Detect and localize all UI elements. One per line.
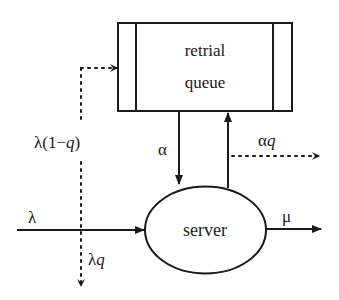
lambda-label: λ [28, 208, 37, 227]
alpha-q-label: αq [258, 131, 276, 150]
retrial-label: retrial [185, 41, 226, 60]
alpha-label: α [158, 140, 167, 159]
queue-label: queue [185, 73, 226, 92]
orbit-split-dotted: λ(1−q) λq [34, 68, 117, 286]
mu-label: μ [282, 207, 291, 226]
queue-diagram: retrial queue server λ λ(1−q) λq α αq μ [0, 0, 339, 300]
retrial-queue-box: retrial queue [118, 23, 292, 111]
orbit-loss-arrow: αq [232, 131, 319, 156]
lambda-q-label: λq [88, 250, 105, 269]
retrial-arrow: α [158, 111, 179, 184]
server-label: server [183, 220, 227, 240]
service-arrow: μ [266, 207, 321, 229]
server-node: server [145, 187, 266, 274]
lambda-one-minus-q-label: λ(1−q) [34, 133, 80, 152]
